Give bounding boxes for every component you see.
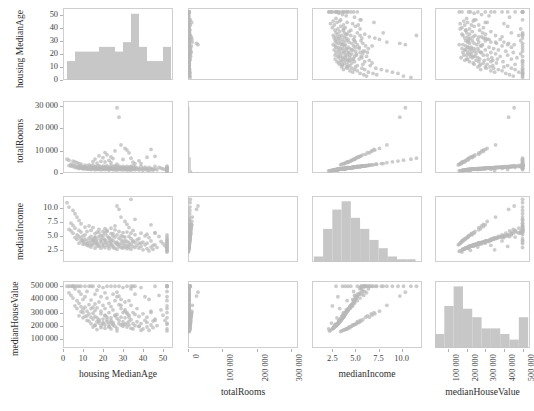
data-point <box>329 22 333 26</box>
y-tick-mark <box>60 67 63 68</box>
data-point <box>153 319 157 323</box>
y-tick-mark <box>60 222 63 223</box>
data-point <box>381 284 385 288</box>
data-point <box>159 240 163 244</box>
y-tick-mark <box>60 15 63 16</box>
data-point <box>521 201 525 205</box>
y-tick-label: 0 <box>54 75 58 84</box>
histogram-bar <box>131 14 139 80</box>
data-point <box>81 242 85 246</box>
data-point <box>463 23 467 27</box>
data-point <box>73 236 77 240</box>
data-point <box>95 240 99 244</box>
scatter-canvas <box>63 281 173 348</box>
data-point <box>506 64 510 68</box>
data-point <box>463 58 467 62</box>
data-point <box>460 47 464 51</box>
data-point <box>487 14 491 18</box>
histogram-bar <box>192 172 193 173</box>
data-point <box>493 70 497 74</box>
y-tick-label: 100 000 <box>31 334 58 343</box>
data-point <box>119 215 123 219</box>
y-tick-label: 10 <box>50 62 58 71</box>
data-point <box>496 165 500 169</box>
data-point <box>107 247 111 251</box>
scatter-canvas <box>63 196 173 262</box>
data-point <box>500 165 504 169</box>
data-point <box>145 320 149 324</box>
data-point <box>482 26 486 30</box>
y-tick-label: 10 000 <box>35 146 58 155</box>
data-point <box>496 57 500 61</box>
data-point <box>489 69 493 73</box>
data-point <box>467 39 471 43</box>
data-point <box>119 297 123 301</box>
data-point <box>363 32 367 36</box>
panel-medianIncome-vs-housingMedianAge <box>63 196 173 262</box>
data-point <box>129 231 133 235</box>
data-point <box>468 27 472 31</box>
data-point <box>509 57 513 61</box>
y-tick-mark <box>60 313 63 314</box>
data-point <box>375 162 379 166</box>
data-point <box>99 326 103 330</box>
data-point <box>356 23 360 27</box>
data-point <box>67 205 71 209</box>
data-point <box>506 24 510 28</box>
y-tick-label: 400 000 <box>31 294 58 303</box>
data-point <box>190 220 194 224</box>
data-point <box>189 225 193 229</box>
data-point <box>493 248 497 252</box>
data-point <box>479 68 483 72</box>
data-point <box>131 239 135 243</box>
panel-totalRooms-vs-medianIncome <box>312 101 422 173</box>
data-point <box>385 284 389 288</box>
histogram-bar <box>406 259 415 262</box>
y-tick-mark <box>60 173 63 174</box>
data-point <box>482 36 486 40</box>
scatter-canvas <box>63 101 173 173</box>
data-point <box>103 314 107 318</box>
data-point <box>501 60 505 64</box>
data-point <box>489 166 493 170</box>
data-point <box>93 246 97 250</box>
data-point <box>135 320 139 324</box>
data-point <box>157 294 161 298</box>
data-point <box>189 18 193 22</box>
data-point <box>189 312 193 316</box>
data-point <box>511 227 515 231</box>
data-point <box>409 157 413 161</box>
data-point <box>125 284 129 288</box>
data-point <box>75 215 79 219</box>
x-tick-label: 200 000 <box>471 354 480 381</box>
data-point <box>494 143 498 147</box>
x-tick-mark <box>222 349 223 352</box>
data-point <box>79 222 83 226</box>
data-point <box>165 284 169 288</box>
data-point <box>190 303 194 307</box>
data-point <box>351 304 355 308</box>
data-point <box>493 236 497 240</box>
data-point <box>509 45 513 49</box>
scatter-canvas <box>435 196 530 262</box>
data-point <box>119 303 123 307</box>
data-point <box>107 236 111 240</box>
data-point <box>89 307 93 311</box>
histogram-bar <box>75 52 83 80</box>
data-point <box>458 27 462 31</box>
data-point <box>466 21 470 25</box>
data-point <box>519 27 523 31</box>
data-point <box>483 21 487 25</box>
data-point <box>117 322 121 326</box>
data-point <box>351 166 355 170</box>
data-point <box>521 18 525 22</box>
y-tick-mark <box>60 54 63 55</box>
data-point <box>340 43 344 47</box>
data-point <box>339 24 343 28</box>
scatter-canvas <box>188 281 298 348</box>
data-point <box>521 55 525 59</box>
data-point <box>484 239 488 243</box>
data-point <box>115 106 119 110</box>
data-point <box>97 319 101 323</box>
data-point <box>521 205 525 209</box>
